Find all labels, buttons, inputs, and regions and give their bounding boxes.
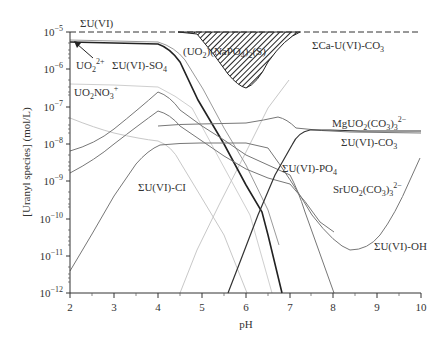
y-ticks: [66, 32, 70, 293]
label-total-uvi: ΣU(VI): [80, 17, 114, 30]
speciation-chart: 2 3 4 5 6 7 8 9 10 10−12 10−11 10−10 10−…: [0, 0, 448, 346]
label-ucl: ΣU(VI)-CI: [138, 181, 186, 194]
svg-text:3: 3: [111, 301, 117, 313]
x-tick-labels: 2 3 4 5 6 7 8 9 10: [67, 301, 427, 313]
label-uoh: ΣU(VI)-OH: [374, 240, 427, 253]
svg-text:10−10: 10−10: [39, 211, 63, 225]
label-uso4: ΣU(VI)-SO4: [112, 59, 167, 74]
y-axis-title: [Uranyl species] (mol/L): [20, 107, 33, 217]
label-sruo2co3: SrUO2(CO3)32−: [333, 181, 402, 198]
svg-text:10−11: 10−11: [40, 248, 63, 262]
uo2-arrow: [74, 41, 93, 58]
solid-phase-region: [178, 32, 300, 88]
x-ticks: [70, 293, 421, 298]
label-uo2: UO22+: [76, 57, 105, 74]
svg-text:4: 4: [155, 301, 161, 313]
svg-text:10−7: 10−7: [43, 99, 63, 113]
svg-text:6: 6: [243, 301, 249, 313]
label-mguo2co3: MgUO2(CO3)32−: [332, 115, 407, 132]
svg-text:8: 8: [330, 301, 336, 313]
svg-text:9: 9: [374, 301, 380, 313]
svg-text:10−12: 10−12: [39, 285, 63, 299]
ucl-curve: [70, 118, 247, 293]
svg-text:5: 5: [199, 301, 205, 313]
y-tick-labels: 10−12 10−11 10−10 10−9 10−8 10−7 10−6 10…: [39, 24, 63, 299]
label-ca-uco3: ΣCa-U(VI)-CO3: [312, 39, 384, 54]
svg-text:10−5: 10−5: [43, 24, 63, 38]
label-uco3: ΣU(VI)-CO3: [341, 136, 397, 151]
svg-text:10−8: 10−8: [43, 136, 63, 150]
upo4-upper-curve: [70, 92, 334, 293]
svg-text:7: 7: [287, 301, 293, 313]
svg-text:10: 10: [416, 301, 428, 313]
svg-text:10−9: 10−9: [43, 173, 63, 187]
label-uo2no3: UO2NO3+: [74, 84, 119, 101]
x-axis-title: pH: [239, 318, 253, 330]
uoh-curve: [70, 143, 420, 271]
svg-text:2: 2: [67, 301, 73, 313]
svg-text:10−6: 10−6: [43, 61, 63, 75]
uco3-curve: [228, 130, 421, 293]
